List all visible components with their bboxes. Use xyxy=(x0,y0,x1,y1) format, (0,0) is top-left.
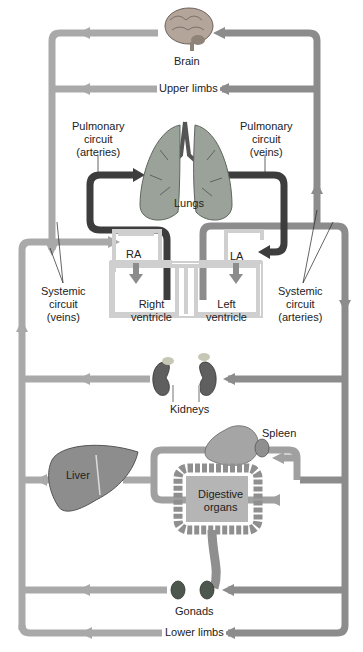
label-pulmonary-arteries-line1: Pulmonary xyxy=(72,120,125,133)
label-systemic-arteries-line2: circuit xyxy=(278,298,323,311)
label-ra: RA xyxy=(126,248,141,261)
label-brain: Brain xyxy=(174,55,200,68)
label-left-ventricle-line1: Left xyxy=(206,298,247,311)
label-left-ventricle: Left ventricle xyxy=(206,298,247,324)
label-digestive-organs-line2: organs xyxy=(198,501,243,514)
label-digestive-organs: Digestive organs xyxy=(198,488,243,514)
vein-arrowheads xyxy=(16,27,120,639)
label-systemic-arteries-line1: Systemic xyxy=(278,285,323,298)
label-left-ventricle-line2: ventricle xyxy=(206,311,247,324)
label-spleen: Spleen xyxy=(262,427,296,440)
label-right-ventricle-line2: ventricle xyxy=(131,311,172,324)
label-systemic-veins-line1: Systemic xyxy=(41,285,86,298)
label-pulmonary-veins-line3: (veins) xyxy=(240,146,293,159)
label-pulmonary-veins: Pulmonary circuit (veins) xyxy=(240,120,293,159)
stomach-spleen-icon xyxy=(205,426,269,466)
label-kidneys: Kidneys xyxy=(170,403,209,416)
label-upper-limbs: Upper limbs xyxy=(157,82,220,95)
circulation-diagram xyxy=(0,0,363,652)
digestive-organs-icon xyxy=(178,468,258,588)
label-pulmonary-veins-line2: circuit xyxy=(240,133,293,146)
brain-icon xyxy=(165,8,213,51)
label-pulmonary-arteries-line2: circuit xyxy=(72,133,125,146)
label-lower-limbs: Lower limbs xyxy=(163,626,226,639)
label-right-ventricle-line1: Right xyxy=(131,298,172,311)
label-systemic-veins: Systemic circuit (veins) xyxy=(41,285,86,324)
label-systemic-arteries-line3: (arteries) xyxy=(278,311,323,324)
label-digestive-organs-line1: Digestive xyxy=(198,488,243,501)
label-systemic-veins-line3: (veins) xyxy=(41,311,86,324)
label-systemic-veins-line2: circuit xyxy=(41,298,86,311)
label-right-ventricle: Right ventricle xyxy=(131,298,172,324)
artery-arrowheads xyxy=(213,27,351,639)
kidneys-icon xyxy=(153,353,216,402)
label-pulmonary-arteries: Pulmonary circuit (arteries) xyxy=(72,120,125,159)
label-liver: Liver xyxy=(66,469,90,482)
label-gonads: Gonads xyxy=(175,605,214,618)
label-pulmonary-veins-line1: Pulmonary xyxy=(240,120,293,133)
label-systemic-arteries: Systemic circuit (arteries) xyxy=(278,285,323,324)
label-lungs: Lungs xyxy=(174,197,204,210)
gonads-icon xyxy=(171,581,214,599)
label-pulmonary-arteries-line3: (arteries) xyxy=(72,146,125,159)
label-la: LA xyxy=(230,250,243,263)
liver-icon xyxy=(49,445,138,511)
